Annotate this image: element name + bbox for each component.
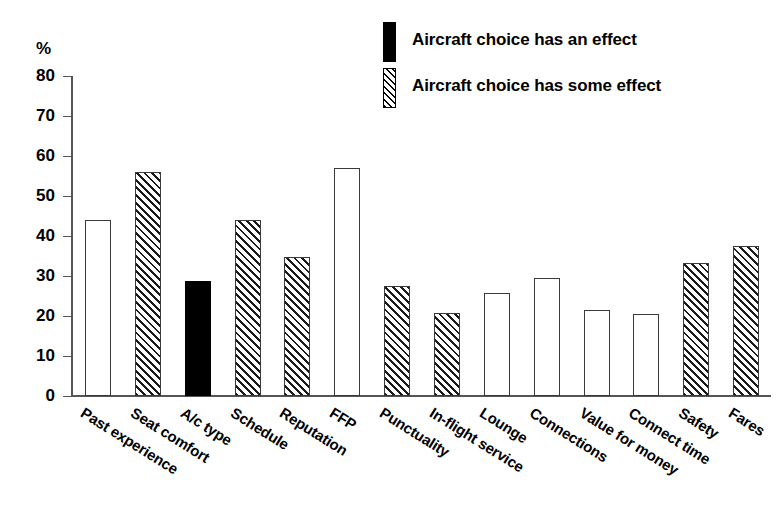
x-axis-label-fares: Fares (726, 404, 768, 439)
y-axis-tick (63, 76, 72, 78)
bar-punctuality (384, 286, 410, 396)
y-axis-tick (63, 116, 72, 118)
bar-reputation (284, 257, 310, 396)
y-axis-tick (63, 276, 72, 278)
bar-schedule (235, 220, 261, 396)
bar-safety (683, 263, 709, 396)
y-axis-tick-label: 40 (15, 227, 55, 244)
y-axis-tick (63, 156, 72, 158)
y-axis-tick (63, 356, 72, 358)
bar-lounge (484, 293, 510, 396)
bar-a-c-type (185, 281, 211, 396)
x-axis-label-ffp: FFP (327, 404, 360, 433)
y-axis-tick-label: 10 (15, 347, 55, 364)
y-axis-tick-label: 0 (15, 387, 55, 404)
bar-connect-time (633, 314, 659, 396)
bar-past-experience (85, 220, 111, 396)
bar-connections (534, 278, 560, 396)
y-axis-tick (63, 396, 72, 398)
y-axis-tick-label: 70 (15, 107, 55, 124)
y-axis-tick-label: 80 (15, 67, 55, 84)
y-axis-tick-label: 50 (15, 187, 55, 204)
y-axis-unit-label: % (36, 39, 51, 59)
plot-area (73, 76, 771, 396)
y-axis-tick (63, 196, 72, 198)
bar-chart: Aircraft choice has an effect Aircraft c… (0, 0, 778, 505)
legend-label-an-effect: Aircraft choice has an effect (412, 30, 637, 50)
bar-in-flight-service (434, 313, 460, 396)
y-axis-tick-label: 30 (15, 267, 55, 284)
legend-item-an-effect: Aircraft choice has an effect (383, 22, 773, 68)
bar-ffp (334, 168, 360, 396)
y-axis-tick (63, 236, 72, 238)
bar-fares (733, 246, 759, 396)
legend-swatch-solid-icon (383, 22, 396, 62)
y-axis-tick (63, 316, 72, 318)
y-axis-tick-label: 20 (15, 307, 55, 324)
bar-value-for-money (584, 310, 610, 396)
bar-seat-comfort (135, 172, 161, 396)
y-axis-tick-label: 60 (15, 147, 55, 164)
